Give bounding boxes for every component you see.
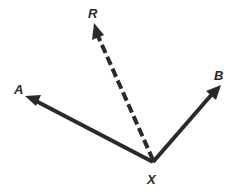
label-x: X [146,172,157,187]
arrowhead-r-icon [92,23,104,40]
ray-xb [153,85,221,162]
ray-xa [25,95,153,162]
ray-xr-line [98,36,153,160]
ray-xa-line [36,101,153,162]
label-a: A [13,82,23,97]
label-b: B [214,68,223,83]
ray-xb-line [153,93,213,162]
angle-diagram: A R B X [0,0,236,193]
label-r: R [88,6,98,21]
ray-xr [92,23,153,160]
